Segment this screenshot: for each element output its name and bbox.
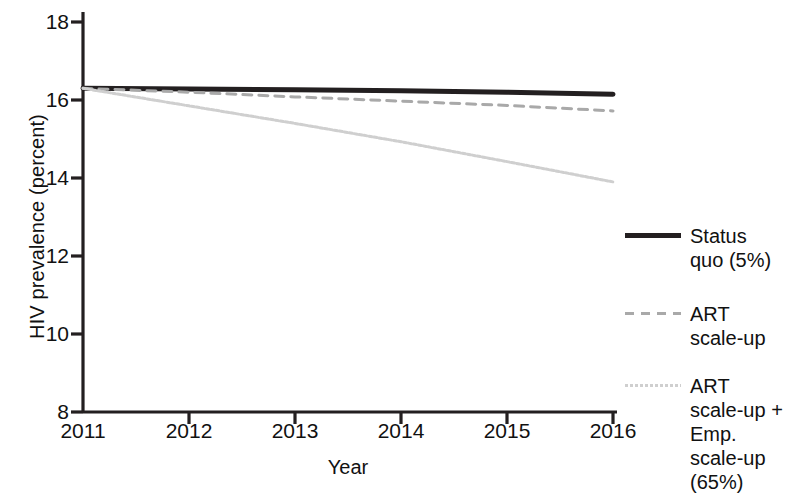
- tick-marks: [71, 22, 613, 424]
- legend-label: ART scale-up: [690, 302, 766, 350]
- legend-item-art-scale-up[interactable]: ART scale-up: [625, 302, 766, 350]
- data-series-group: [83, 88, 613, 182]
- legend-swatch-dashed-line-icon: [625, 302, 681, 324]
- legend-item-status-quo[interactable]: Status quo (5%): [625, 224, 771, 272]
- legend-label: Status quo (5%): [690, 224, 771, 272]
- legend-item-art-emp-scale-up[interactable]: ART scale-up + Emp. scale-up (65%): [625, 374, 783, 494]
- legend-swatch-solid-line-icon: [625, 224, 681, 246]
- data-series-line: [83, 88, 613, 182]
- legend-swatch-dotted-line-icon: [625, 374, 681, 396]
- legend-label: ART scale-up + Emp. scale-up (65%): [690, 374, 783, 494]
- axis-lines: [83, 12, 617, 412]
